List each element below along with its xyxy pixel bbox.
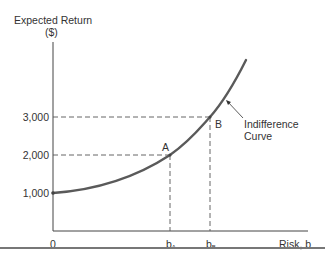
- indifference-curve-annotation-line2: Curve: [244, 130, 272, 142]
- y-tick-label-3000: 3,000: [9, 111, 49, 123]
- indifference-curve-annotation-line1: Indifference: [244, 118, 299, 130]
- point-a-marker: [169, 154, 172, 157]
- indifference-curve-chart: [0, 0, 325, 263]
- point-b-label: B: [215, 118, 222, 130]
- x-tick-label-bB: bB: [206, 238, 216, 253]
- point-a-label: A: [162, 141, 169, 153]
- y-tick-label-1000: 1,000: [9, 187, 49, 199]
- y-axis-title-line1: Expected Return: [14, 14, 92, 26]
- y-axis-title-line2: ($): [45, 26, 58, 38]
- x-tick-label-bA: bA: [166, 238, 176, 253]
- bottom-divider-rule: [0, 247, 325, 249]
- y-tick-label-2000: 2,000: [9, 149, 49, 161]
- point-b-marker: [209, 116, 212, 119]
- point-origin-marker: [51, 191, 55, 195]
